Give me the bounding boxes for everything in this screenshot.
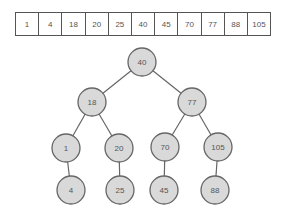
tree-node-88: 88 bbox=[201, 176, 229, 204]
tree-node-18: 18 bbox=[78, 88, 106, 116]
node-label: 18 bbox=[88, 98, 97, 107]
node-label: 25 bbox=[116, 186, 125, 195]
node-label: 40 bbox=[138, 58, 147, 67]
tree-edges bbox=[66, 62, 218, 190]
tree-node-4: 4 bbox=[57, 176, 85, 204]
node-label: 4 bbox=[69, 186, 74, 195]
tree-node-20: 20 bbox=[105, 134, 133, 162]
tree-node-45: 45 bbox=[150, 176, 178, 204]
node-label: 105 bbox=[211, 143, 225, 152]
node-label: 77 bbox=[188, 98, 197, 107]
tree-node-77: 77 bbox=[178, 88, 206, 116]
tree-node-70: 70 bbox=[151, 133, 179, 161]
node-label: 88 bbox=[211, 186, 220, 195]
tree-node-40: 40 bbox=[128, 48, 156, 76]
binary-search-tree: 401877120701054254588 bbox=[0, 0, 284, 217]
tree-node-105: 105 bbox=[204, 133, 232, 161]
node-label: 1 bbox=[64, 144, 69, 153]
node-label: 70 bbox=[161, 143, 170, 152]
node-label: 20 bbox=[115, 144, 124, 153]
tree-node-25: 25 bbox=[106, 176, 134, 204]
node-label: 45 bbox=[160, 186, 169, 195]
tree-node-1: 1 bbox=[52, 134, 80, 162]
